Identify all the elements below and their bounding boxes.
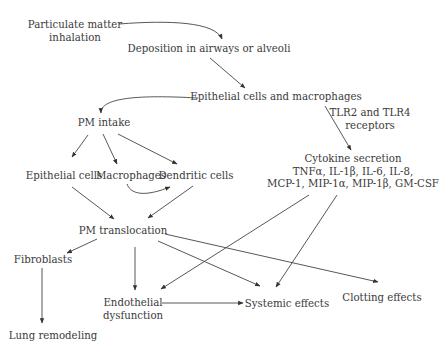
- node-systemic-effects: Systemic effects: [245, 298, 329, 311]
- node-epithelial-cells-label: Epithelial cells: [26, 170, 102, 183]
- edge-epithelial-cells-to-pm-translocation: [72, 187, 114, 219]
- node-pm-translocation: PM translocation: [79, 225, 168, 238]
- edge-macrophages-to-dendritic-cells: [127, 184, 170, 193]
- node-systemic-effects-label: Systemic effects: [245, 298, 329, 311]
- edge-dendritic-cells-to-pm-translocation: [148, 186, 193, 218]
- node-deposition-label: Deposition in airways or alveoli: [128, 43, 291, 56]
- node-cytokine-secretion: Cytokine secretion TNFα, IL-1β, IL-6, IL…: [267, 153, 439, 191]
- node-cytokine-line1: Cytokine secretion: [267, 153, 439, 166]
- pm-health-effects-diagram: Particulate matter inhalation Deposition…: [0, 0, 445, 350]
- node-endothelial-dysfunction: Endothelial dysfunction: [103, 297, 163, 322]
- edge-inhalation-to-deposition: [119, 22, 222, 39]
- node-dendritic-cells-label: Dendritic cells: [158, 170, 233, 183]
- node-endothelial-line1: Endothelial: [103, 297, 163, 310]
- edge-pm-intake-to-dendritic-cells: [118, 134, 177, 164]
- node-lung-remodeling: Lung remodeling: [9, 330, 98, 343]
- node-tlr-receptors: TLR2 and TLR4 receptors: [329, 107, 410, 132]
- node-epithelial-macrophages: Epithelial cells and macrophages: [190, 91, 361, 104]
- edge-epithelial-macrophages-to-pm-intake: [101, 97, 198, 113]
- edge-pm-intake-to-epithelial-cells: [72, 135, 88, 157]
- node-endothelial-line2: dysfunction: [103, 310, 163, 323]
- node-fibroblasts: Fibroblasts: [14, 254, 72, 267]
- node-pm-intake-label: PM intake: [78, 117, 131, 130]
- node-pm-inhalation-line1: Particulate matter: [28, 19, 122, 32]
- node-cytokine-line2: TNFα, IL-1β, IL-6, IL-8,: [267, 166, 439, 179]
- node-fibroblasts-label: Fibroblasts: [14, 254, 72, 267]
- node-pm-intake: PM intake: [78, 117, 131, 130]
- node-clotting-effects: Clotting effects: [342, 292, 421, 305]
- edge-pm-translocation-to-fibroblasts: [67, 239, 97, 253]
- node-lung-remodeling-label: Lung remodeling: [9, 330, 98, 343]
- node-clotting-effects-label: Clotting effects: [342, 292, 421, 305]
- node-tlr-line1: TLR2 and TLR4: [329, 107, 410, 120]
- node-cytokine-line3: MCP-1, MIP-1α, MIP-1β, GM-CSF: [267, 178, 439, 191]
- node-pm-inhalation-line2: inhalation: [28, 32, 122, 45]
- node-tlr-line2: receptors: [329, 120, 410, 133]
- node-deposition: Deposition in airways or alveoli: [128, 43, 291, 56]
- node-epithelial-macrophages-label: Epithelial cells and macrophages: [190, 91, 361, 104]
- node-epithelial-cells: Epithelial cells: [26, 170, 102, 183]
- edge-pm-translocation-to-systemic: [158, 241, 260, 286]
- node-dendritic-cells: Dendritic cells: [158, 170, 233, 183]
- edge-deposition-to-epithelial-macrophages: [210, 58, 245, 88]
- node-macrophages: Macrophages: [96, 170, 166, 183]
- edge-cytokine-to-systemic: [276, 195, 337, 287]
- node-macrophages-label: Macrophages: [96, 170, 166, 183]
- node-pm-translocation-label: PM translocation: [79, 225, 168, 238]
- edge-pm-intake-to-macrophages: [103, 134, 117, 164]
- node-pm-inhalation: Particulate matter inhalation: [28, 19, 122, 44]
